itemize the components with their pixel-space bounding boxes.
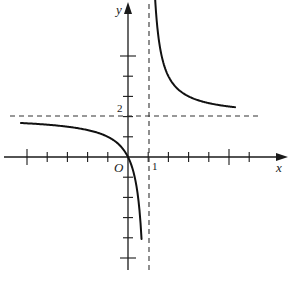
- function-graph: y x O 1 2: [0, 0, 288, 281]
- origin-label: O: [114, 160, 124, 175]
- x-axis-label: x: [275, 160, 282, 175]
- right-branch-curve: [155, 0, 235, 107]
- y-axis-arrow-icon: [124, 2, 132, 14]
- y-tick-label-2: 2: [117, 102, 123, 114]
- y-axis-label: y: [114, 2, 122, 17]
- asymptotes: [10, 4, 258, 270]
- figure-caption-clipped: [0, 273, 288, 281]
- axis-labels: y x O 1 2: [114, 2, 282, 175]
- axes: [4, 2, 288, 270]
- left-branch-curve: [21, 123, 142, 239]
- x-tick-label-1: 1: [152, 160, 158, 172]
